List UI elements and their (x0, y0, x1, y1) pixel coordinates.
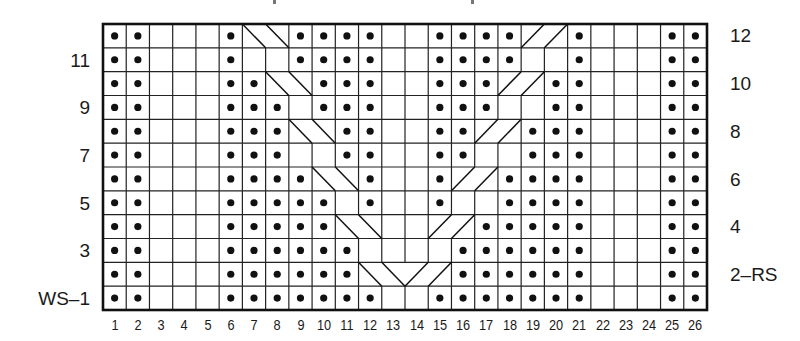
purl-dot-icon (111, 80, 118, 87)
purl-dot-icon (250, 199, 257, 206)
purl-dot-icon (297, 223, 304, 230)
purl-dot-icon (367, 175, 374, 182)
purl-dot-icon (576, 104, 583, 111)
purl-dot-icon (111, 32, 118, 39)
purl-dot-icon (436, 80, 443, 87)
purl-dot-icon (576, 175, 583, 182)
purl-dot-icon (320, 223, 327, 230)
col-label: 5 (197, 316, 217, 333)
col-label: 17 (476, 316, 496, 333)
purl-dot-icon (692, 128, 699, 135)
purl-dot-icon (459, 271, 466, 278)
purl-dot-icon (483, 32, 490, 39)
purl-dot-icon (436, 199, 443, 206)
row-label-7: 7 (0, 146, 90, 166)
col-label: 7 (244, 316, 264, 333)
purl-dot-icon (552, 104, 559, 111)
col-label: 16 (453, 316, 473, 333)
purl-dot-icon (436, 151, 443, 158)
purl-dot-icon (669, 247, 676, 254)
purl-dot-icon (552, 294, 559, 301)
purl-dot-icon (111, 175, 118, 182)
purl-dot-icon (459, 80, 466, 87)
purl-dot-icon (320, 294, 327, 301)
purl-dot-icon (552, 271, 559, 278)
col-label: 13 (383, 316, 403, 333)
col-label: 9 (290, 316, 310, 333)
purl-dot-icon (250, 104, 257, 111)
purl-dot-icon (483, 80, 490, 87)
col-label: 1 (104, 316, 124, 333)
purl-dot-icon (274, 104, 281, 111)
purl-dot-icon (297, 294, 304, 301)
col-label: 15 (430, 316, 450, 333)
col-label: 12 (360, 316, 380, 333)
purl-dot-icon (274, 199, 281, 206)
purl-dot-icon (343, 151, 350, 158)
purl-dot-icon (506, 56, 513, 63)
purl-dot-icon (274, 128, 281, 135)
purl-dot-icon (692, 247, 699, 254)
purl-dot-icon (576, 56, 583, 63)
row-label-11: 11 (0, 51, 90, 71)
purl-dot-icon (274, 223, 281, 230)
purl-dot-icon (506, 32, 513, 39)
purl-dot-icon (343, 32, 350, 39)
purl-dot-icon (506, 199, 513, 206)
purl-dot-icon (367, 128, 374, 135)
purl-dot-icon (134, 223, 141, 230)
col-label: 26 (685, 316, 705, 333)
purl-dot-icon (343, 104, 350, 111)
purl-dot-icon (134, 128, 141, 135)
purl-dot-icon (227, 56, 234, 63)
purl-dot-icon (529, 223, 536, 230)
knitting-chart-grid (0, 0, 800, 341)
col-label: 4 (174, 316, 194, 333)
purl-dot-icon (692, 56, 699, 63)
purl-dot-icon (367, 80, 374, 87)
row-label-2-rs: 2–RS (730, 265, 778, 285)
purl-dot-icon (343, 80, 350, 87)
purl-dot-icon (250, 80, 257, 87)
purl-dot-icon (227, 199, 234, 206)
purl-dot-icon (459, 151, 466, 158)
purl-dot-icon (274, 175, 281, 182)
purl-dot-icon (669, 104, 676, 111)
purl-dot-icon (669, 80, 676, 87)
purl-dot-icon (320, 104, 327, 111)
row-label-3: 3 (0, 241, 90, 261)
purl-dot-icon (552, 199, 559, 206)
purl-dot-icon (134, 247, 141, 254)
purl-dot-icon (367, 104, 374, 111)
purl-dot-icon (227, 223, 234, 230)
purl-dot-icon (692, 151, 699, 158)
purl-dot-icon (483, 247, 490, 254)
purl-dot-icon (367, 56, 374, 63)
purl-dot-icon (459, 247, 466, 254)
purl-dot-icon (227, 128, 234, 135)
purl-dot-icon (552, 80, 559, 87)
row-label-5: 5 (0, 194, 90, 214)
purl-dot-icon (274, 247, 281, 254)
purl-dot-icon (250, 151, 257, 158)
purl-dot-icon (343, 56, 350, 63)
purl-dot-icon (692, 223, 699, 230)
purl-dot-icon (250, 247, 257, 254)
top-text-fragment (273, 0, 276, 4)
row-label-9: 9 (0, 98, 90, 118)
purl-dot-icon (692, 199, 699, 206)
purl-dot-icon (250, 271, 257, 278)
row-label-12: 12 (730, 26, 751, 46)
purl-dot-icon (297, 271, 304, 278)
purl-dot-icon (669, 175, 676, 182)
purl-dot-icon (459, 294, 466, 301)
purl-dot-icon (274, 151, 281, 158)
purl-dot-icon (250, 223, 257, 230)
purl-dot-icon (692, 271, 699, 278)
col-label: 21 (569, 316, 589, 333)
col-label: 11 (337, 316, 357, 333)
purl-dot-icon (669, 151, 676, 158)
purl-dot-icon (134, 104, 141, 111)
row-label-8: 8 (730, 122, 741, 142)
purl-dot-icon (343, 294, 350, 301)
